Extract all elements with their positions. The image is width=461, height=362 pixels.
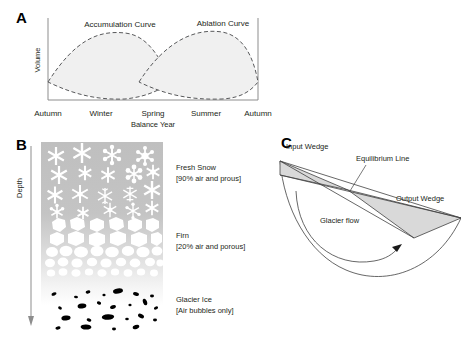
- x-tick-autumn-start: Autumn: [34, 109, 62, 118]
- depth-axis-label: Depth: [15, 178, 24, 198]
- x-tick-summer: Summer: [191, 109, 222, 118]
- layer-glacier-ice-name: Glacier Ice: [176, 295, 212, 304]
- layer-glacier-ice-detail: [Air bubbles only]: [176, 306, 234, 315]
- equilibrium-line-label: Equilibrium Line: [356, 154, 409, 163]
- layer-labels: Fresh Snow [90% air and prous] Firn [20%…: [176, 163, 245, 315]
- input-wedge-label: Input Wedge: [286, 142, 328, 151]
- panel-a-balance-year-chart: Volume Accumulation Curve Ablation Curve…: [0, 0, 300, 128]
- layer-firn-name: Firn: [176, 231, 189, 240]
- panel-c-glacier-mass-wedges: Input Wedge Equilibrium Line Output Wedg…: [268, 128, 461, 303]
- depth-arrow: [28, 146, 34, 326]
- accumulation-curve-label: Accumulation Curve: [84, 20, 156, 29]
- input-wedge: [280, 161, 348, 190]
- layer-fresh-snow-name: Fresh Snow: [176, 163, 217, 172]
- ablation-curve-label: Ablation Curve: [197, 19, 250, 28]
- glacier-flow-label: Glacier flow: [320, 216, 360, 225]
- x-tick-spring: Spring: [141, 109, 164, 118]
- layer-fresh-snow-detail: [90% air and prous]: [176, 174, 241, 183]
- ablation-curve: [139, 31, 258, 99]
- output-wedge-label: Output Wedge: [396, 194, 444, 203]
- x-tick-winter: Winter: [89, 109, 112, 118]
- y-axis-title: Volume: [33, 47, 42, 72]
- layer-firn-detail: [20% air and porous]: [176, 242, 245, 251]
- panel-b-snow-to-ice-column: Depth: [0, 128, 280, 343]
- x-tick-autumn-end: Autumn: [244, 109, 272, 118]
